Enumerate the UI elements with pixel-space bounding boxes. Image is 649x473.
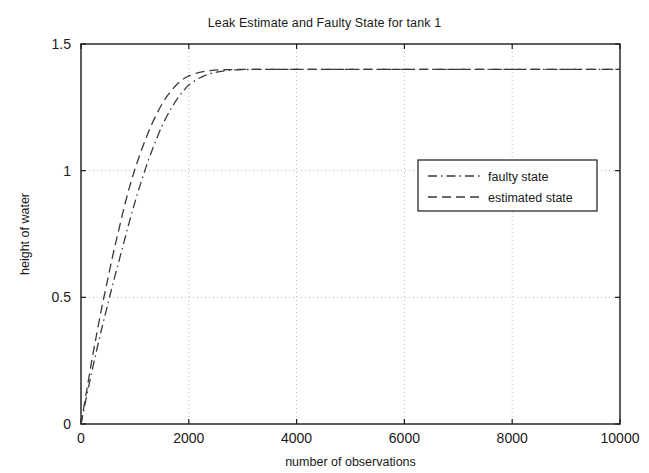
x-tick-label: 4000	[281, 430, 312, 446]
series-line-estimated-state	[81, 69, 620, 424]
y-tick-label: 1.5	[52, 36, 72, 52]
series-line-faulty-state	[81, 69, 620, 424]
x-tick-label: 2000	[173, 430, 204, 446]
plot-border	[81, 44, 620, 424]
plot-canvas: 020004000600080001000000.511.5 number of…	[0, 0, 649, 473]
y-axis-title: height of water	[18, 193, 32, 275]
y-tick-label: 0.5	[52, 289, 72, 305]
x-tick-label: 10000	[601, 430, 640, 446]
legend-label: faulty state	[488, 170, 548, 184]
x-tick-label: 0	[77, 430, 85, 446]
y-tick-label: 0	[63, 416, 71, 432]
x-axis-title: number of observations	[285, 455, 416, 469]
axis-tick-labels: 020004000600080001000000.511.5	[52, 36, 640, 446]
plot-axes	[81, 44, 620, 424]
data-series	[81, 69, 620, 424]
chart-legend: faulty stateestimated state	[418, 160, 597, 211]
grid-lines	[81, 44, 620, 424]
y-tick-label: 1	[63, 163, 71, 179]
x-tick-label: 8000	[497, 430, 528, 446]
chart-figure: Leak Estimate and Faulty State for tank …	[0, 0, 649, 473]
axis-ticks	[81, 44, 620, 424]
axis-titles: number of observationsheight of water	[18, 193, 416, 469]
x-tick-label: 6000	[389, 430, 420, 446]
legend-label: estimated state	[488, 191, 573, 205]
